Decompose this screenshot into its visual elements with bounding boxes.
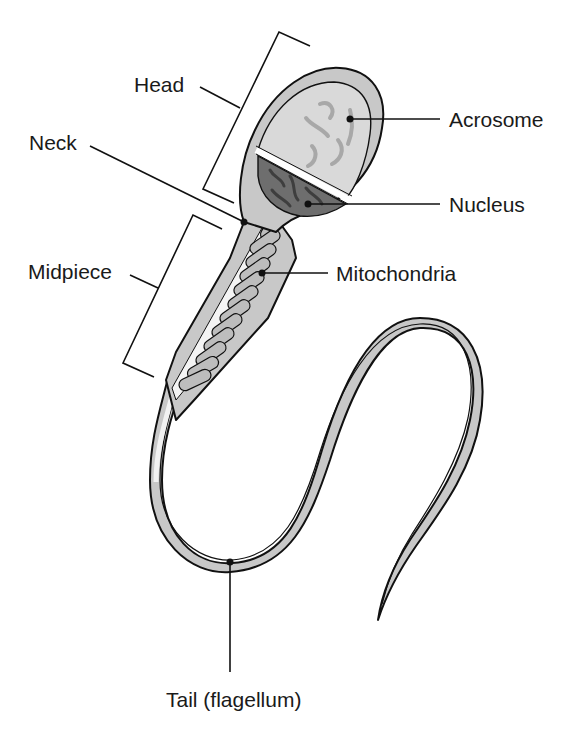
label-neck: Neck (29, 131, 77, 154)
midpiece (166, 212, 296, 420)
label-tail: Tail (flagellum) (166, 688, 301, 711)
label-nucleus: Nucleus (449, 193, 525, 216)
label-head: Head (134, 73, 184, 96)
head (240, 68, 383, 232)
label-mitochondria: Mitochondria (336, 262, 457, 285)
label-midpiece: Midpiece (28, 260, 112, 283)
sperm-cell-diagram: Head Neck Midpiece Acrosome Nucleus Mito… (0, 0, 581, 735)
tail-leader (227, 559, 234, 673)
label-acrosome: Acrosome (449, 108, 544, 131)
neck-leader (90, 146, 248, 226)
